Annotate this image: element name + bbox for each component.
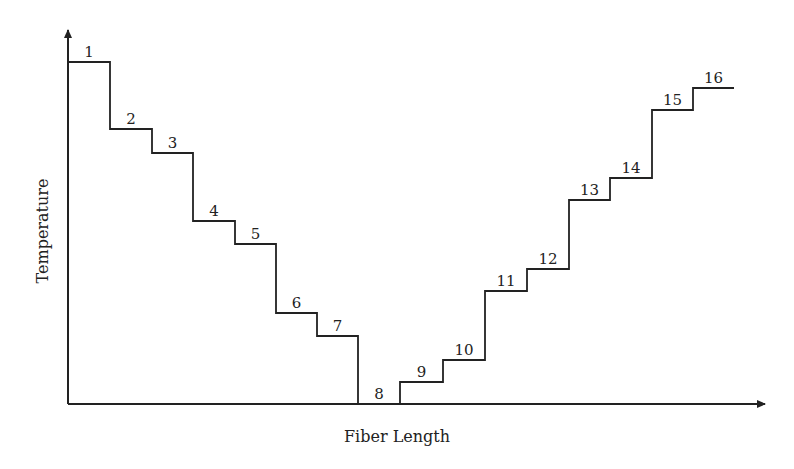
x-axis-label: Fiber Length [344, 427, 450, 446]
step-temperature-chart: 12345678910111213141516 Fiber Length Tem… [0, 0, 794, 469]
step-label: 6 [292, 294, 302, 312]
y-axis-label: Temperature [33, 179, 52, 284]
step-label: 9 [417, 363, 427, 381]
step-label: 13 [580, 181, 599, 199]
step-labels: 12345678910111213141516 [84, 43, 723, 403]
step-label: 16 [704, 69, 723, 87]
step-label: 10 [454, 341, 473, 359]
step-label: 3 [168, 134, 178, 152]
step-label: 11 [496, 272, 515, 290]
step-label: 12 [538, 250, 557, 268]
step-label: 14 [621, 159, 640, 177]
step-label: 8 [374, 385, 384, 403]
step-label: 2 [126, 110, 136, 128]
step-label: 4 [209, 202, 219, 220]
axes [68, 30, 765, 404]
temperature-step-line [68, 62, 734, 404]
step-label: 1 [84, 43, 94, 61]
step-label: 5 [251, 225, 261, 243]
step-label: 15 [663, 91, 682, 109]
step-label: 7 [333, 317, 343, 335]
